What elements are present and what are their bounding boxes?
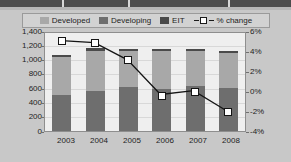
y-axis-tick-0: 0 bbox=[6, 128, 42, 136]
y2-axis-tick-2: 2% bbox=[250, 68, 280, 76]
line-marker-2008 bbox=[224, 108, 232, 116]
chart-figure: Developed Developing EIT % change 1,400 … bbox=[0, 0, 291, 162]
y2-axis-tick-4: 4% bbox=[250, 48, 280, 56]
line-marker-2006 bbox=[158, 92, 166, 100]
x-axis-label-2007: 2007 bbox=[181, 137, 215, 145]
line-marker-2007 bbox=[191, 88, 199, 96]
legend-swatch-eit bbox=[160, 17, 169, 24]
legend-item-percent-change: % change bbox=[194, 16, 253, 25]
line-marker-2004 bbox=[91, 39, 99, 47]
y-axis-tick-600: 600 bbox=[6, 85, 42, 93]
y-axis-tick-800: 800 bbox=[6, 70, 42, 78]
legend-label-percent-change: % change bbox=[217, 17, 253, 25]
legend-swatch-developing bbox=[99, 17, 108, 24]
percent-change-line bbox=[45, 33, 245, 131]
y2-axis-tick-0: 0% bbox=[250, 88, 280, 96]
y2-axis-tick-neg4: -4% bbox=[250, 128, 280, 136]
legend-item-developed: Developed bbox=[40, 17, 90, 25]
legend-label-developing: Developing bbox=[111, 17, 151, 25]
table-header-band bbox=[0, 0, 291, 7]
x-axis-label-2006: 2006 bbox=[148, 137, 182, 145]
y-axis-tick-400: 400 bbox=[6, 99, 42, 107]
x-axis-label-2008: 2008 bbox=[214, 137, 248, 145]
y2-axis-tick-6: 6% bbox=[250, 28, 280, 36]
x-axis-label-2004: 2004 bbox=[82, 137, 116, 145]
plot-area bbox=[44, 32, 246, 132]
legend-item-developing: Developing bbox=[99, 17, 151, 25]
line-marker-2003 bbox=[58, 37, 66, 45]
y-axis-tick-1000: 1,000 bbox=[6, 56, 42, 64]
x-axis-label-2005: 2005 bbox=[115, 137, 149, 145]
x-axis-label-2003: 2003 bbox=[49, 137, 83, 145]
line-marker-2005 bbox=[124, 56, 132, 64]
chart-plate: Developed Developing EIT % change 1,400 … bbox=[0, 10, 291, 157]
y-axis-tick-200: 200 bbox=[6, 113, 42, 121]
y2-axis-tick-neg2: -2% bbox=[250, 108, 280, 116]
legend-line-marker-icon bbox=[194, 16, 214, 25]
legend-label-eit: EIT bbox=[172, 17, 184, 25]
y-axis-tick-1200: 1,200 bbox=[6, 42, 42, 50]
y-axis-tick-1400: 1,400 bbox=[6, 28, 42, 36]
chart-legend: Developed Developing EIT % change bbox=[22, 13, 270, 28]
legend-swatch-developed bbox=[40, 17, 49, 24]
legend-item-eit: EIT bbox=[160, 17, 184, 25]
legend-label-developed: Developed bbox=[52, 17, 90, 25]
